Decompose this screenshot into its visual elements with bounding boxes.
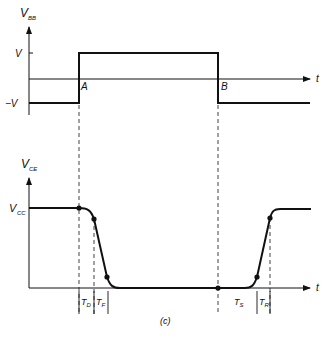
vce-time-label: t bbox=[316, 282, 320, 293]
dashed-guides bbox=[79, 105, 270, 314]
vbb-axis-sub: BB bbox=[28, 15, 36, 21]
vcc-sub: CC bbox=[17, 210, 26, 216]
interval-tf: TF bbox=[96, 297, 106, 308]
vbb-plot: V BB t V −V A B bbox=[5, 6, 320, 115]
interval-tr: TR bbox=[259, 297, 270, 308]
interval-ts: TS bbox=[234, 297, 244, 308]
switching-waveform-diagram: V BB t V −V A B V CE t V CC bbox=[0, 0, 330, 341]
point-b-label: B bbox=[221, 81, 228, 92]
vce-plot: V CE t V CC TD TF TS TR bbox=[9, 157, 320, 314]
level-v-label: V bbox=[15, 48, 23, 59]
vbb-time-label: t bbox=[316, 73, 320, 84]
level-neg-v-label: −V bbox=[5, 98, 19, 109]
vbb-waveform bbox=[29, 53, 310, 103]
interval-td: TD bbox=[81, 297, 92, 308]
point-a-label: A bbox=[80, 81, 88, 92]
figure-label: (c) bbox=[160, 316, 171, 326]
transition-dots bbox=[76, 205, 272, 290]
vce-axis-sub: CE bbox=[29, 166, 38, 172]
